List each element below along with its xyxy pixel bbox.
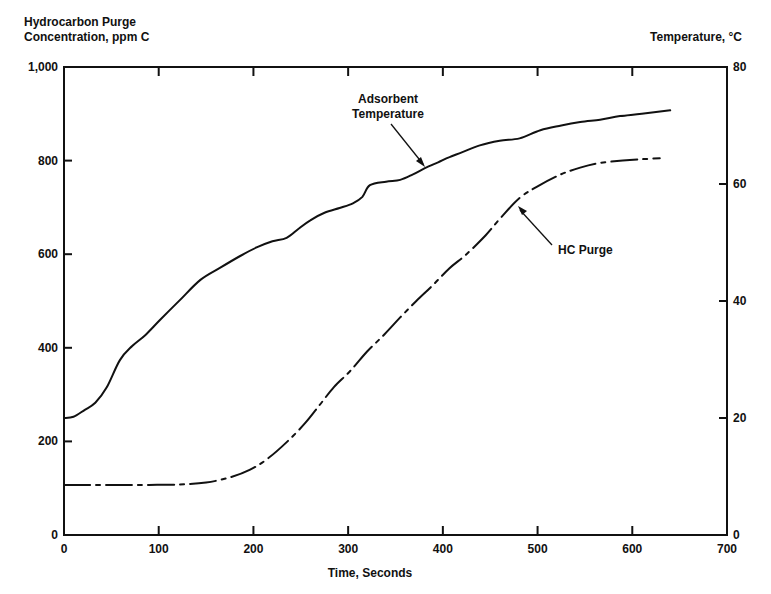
data-point (641, 159, 642, 160)
y-tick-label: 600 (38, 247, 58, 261)
data-point (92, 484, 93, 485)
y-tick-label: 800 (38, 154, 58, 168)
series-line-adsorbent-temperature (64, 110, 670, 418)
annotation-label: HC Purge (558, 243, 613, 257)
annotation-hc-purge: HC Purge (518, 206, 613, 257)
y-tick-label: 0 (51, 528, 58, 542)
y2-axis-title: Temperature, °C (650, 30, 742, 44)
plot-frame (64, 67, 727, 535)
y2-tick-label: 20 (733, 411, 747, 425)
y-tick-label: 1,000 (28, 60, 58, 74)
x-tick-label: 300 (338, 542, 358, 556)
x-tick-label: 700 (717, 542, 737, 556)
x-tick-label: 0 (61, 542, 68, 556)
x-axis-ticks: 0100200300400500600700 (61, 67, 738, 556)
y2-tick-label: 40 (733, 294, 747, 308)
y-axis-title-line1: Hydrocarbon Purge (24, 15, 136, 29)
series-line-hc-purge (64, 158, 660, 485)
arrowhead-icon (518, 206, 527, 215)
x-tick-label: 600 (622, 542, 642, 556)
annotation-label-line2: Temperature (352, 107, 424, 121)
y-axis-title-line2: Concentration, ppm C (24, 30, 150, 44)
y-tick-label: 400 (38, 341, 58, 355)
y2-tick-label: 80 (733, 60, 747, 74)
arrowhead-icon (416, 157, 425, 167)
data-point (229, 477, 230, 478)
series-layer (64, 110, 671, 486)
x-axis-title: Time, Seconds (328, 566, 413, 580)
y-axis-ticks: 02004006008001,000 (28, 60, 72, 542)
data-point (433, 284, 434, 285)
chart: Hydrocarbon Purge Concentration, ppm C T… (0, 0, 771, 594)
x-tick-label: 100 (149, 542, 169, 556)
annotation-arrow-line (391, 124, 423, 164)
annotation-arrow-line (520, 210, 552, 245)
y2-tick-label: 60 (733, 177, 747, 191)
x-tick-label: 500 (528, 542, 548, 556)
y2-axis-ticks: 020406080 (719, 60, 747, 542)
x-tick-label: 400 (433, 542, 453, 556)
y-tick-label: 200 (38, 434, 58, 448)
x-tick-label: 200 (243, 542, 263, 556)
y2-tick-label: 0 (733, 528, 740, 542)
annotation-label-line1: Adsorbent (358, 92, 418, 106)
annotation-adsorbent-temperature: Adsorbent Temperature (352, 92, 425, 167)
